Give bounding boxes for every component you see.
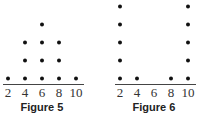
- dot: [23, 41, 27, 45]
- dot: [186, 59, 190, 63]
- dot: [6, 77, 10, 81]
- dot: [186, 41, 190, 45]
- dot: [23, 77, 27, 81]
- dot: [23, 59, 27, 63]
- dot: [40, 41, 44, 45]
- tick-label: 8: [168, 85, 175, 100]
- dot: [169, 77, 173, 81]
- dot: [186, 5, 190, 9]
- dot: [74, 77, 78, 81]
- dot: [57, 77, 61, 81]
- figure-5-caption: Figure 5: [21, 101, 64, 113]
- tick-label: 4: [22, 85, 29, 100]
- tick-label: 6: [39, 85, 46, 100]
- dot: [135, 77, 139, 81]
- dot-plots: Figure 5 246810 Figure 6 246810: [0, 0, 203, 117]
- tick-label: 2: [5, 85, 12, 100]
- dot: [40, 23, 44, 27]
- dot: [118, 59, 122, 63]
- dot: [118, 77, 122, 81]
- dot: [118, 41, 122, 45]
- tick-label: 8: [56, 85, 63, 100]
- tick-label: 10: [70, 85, 83, 100]
- tick-label: 10: [182, 85, 195, 100]
- dot: [40, 77, 44, 81]
- figure-6-plot: Figure 6 246810: [115, 5, 196, 114]
- dot: [118, 23, 122, 27]
- tick-label: 2: [117, 85, 124, 100]
- dot: [118, 5, 122, 9]
- dot: [57, 41, 61, 45]
- dot: [40, 59, 44, 63]
- dot: [186, 23, 190, 27]
- figure-5-plot: Figure 5 246810: [3, 23, 84, 114]
- dot: [57, 59, 61, 63]
- dot: [186, 77, 190, 81]
- tick-label: 6: [151, 85, 158, 100]
- tick-label: 4: [134, 85, 141, 100]
- figure-6-caption: Figure 6: [133, 101, 176, 113]
